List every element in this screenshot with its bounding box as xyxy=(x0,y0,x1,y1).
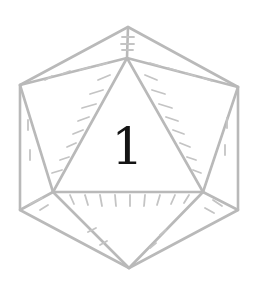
d20-die-illustration: 1 xyxy=(0,0,255,288)
die-face-number: 1 xyxy=(0,122,255,172)
